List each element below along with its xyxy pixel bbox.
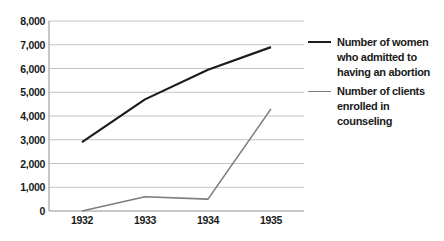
series-line-women-abortion (82, 47, 271, 142)
legend-label: Number of women who admitted to having a… (337, 35, 430, 80)
x-tick-label: 1935 (251, 214, 291, 226)
legend-line-sample-gray (308, 91, 331, 92)
legend-item-women-abortion: Number of women who admitted to having a… (308, 35, 444, 80)
legend-line-sample-dark (308, 41, 331, 43)
y-tick-label: 8,000 (0, 15, 45, 27)
x-tick-label: 1934 (188, 214, 228, 226)
y-tick-label: 2,000 (0, 158, 45, 170)
y-tick-label: 3,000 (0, 134, 45, 146)
y-tick-label: 4,000 (0, 110, 45, 122)
legend: Number of women who admitted to having a… (308, 35, 444, 129)
legend-label: Number of clients enrolled in counseling (337, 84, 444, 129)
y-tick-label: 5,000 (0, 86, 45, 98)
y-tick-label: 6,000 (0, 63, 45, 75)
legend-item-clients-counseling: Number of clients enrolled in counseling (308, 84, 444, 129)
y-tick-label: 7,000 (0, 39, 45, 51)
abortion-counseling-line-chart: 01,0002,0003,0004,0005,0006,0007,0008,00… (0, 0, 444, 241)
y-tick-label: 0 (0, 205, 45, 217)
x-tick-label: 1932 (62, 214, 102, 226)
x-tick-label: 1933 (125, 214, 165, 226)
y-tick-label: 1,000 (0, 181, 45, 193)
